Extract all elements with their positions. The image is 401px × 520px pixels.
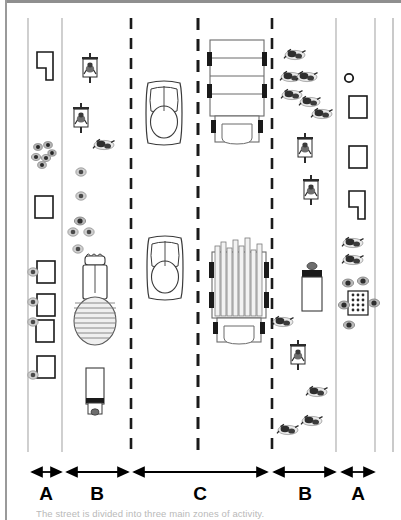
figure-caption: The street is divided into three main zo… — [36, 508, 386, 519]
post-marker — [345, 74, 353, 82]
pedestrian — [68, 228, 78, 236]
motorcycle — [277, 424, 299, 434]
motorcycle — [342, 237, 364, 247]
motorcycle — [301, 415, 323, 425]
stall — [37, 52, 53, 80]
pedestrian — [28, 318, 38, 326]
stall — [349, 96, 367, 118]
motorcycle — [290, 340, 306, 370]
motorcycle — [311, 108, 333, 118]
left-lane-objects — [68, 53, 116, 415]
motorcycle — [342, 254, 364, 264]
zone-label-b-left: B — [90, 483, 104, 504]
pedestrian-crowd — [31, 142, 56, 169]
motorcycle — [281, 89, 303, 99]
zone-label-a-right: A — [351, 483, 365, 504]
stall — [36, 320, 54, 342]
diagram-canvas: A B C B A — [0, 0, 401, 520]
zone-label-b-right: B — [298, 483, 312, 504]
figure-left-border — [5, 0, 7, 520]
pedestrian — [357, 277, 368, 285]
pedestrian — [28, 268, 38, 276]
car — [146, 81, 182, 145]
pedestrian — [28, 371, 38, 379]
pedestrian — [342, 279, 353, 287]
pedestrian — [73, 245, 83, 253]
truck — [207, 40, 267, 144]
motorcycle — [82, 53, 98, 83]
car — [147, 236, 183, 300]
pedestrian — [84, 228, 94, 236]
motorcycle — [284, 49, 306, 59]
motorcycle — [306, 386, 328, 396]
street-zone-diagram: A B C B A The street is divided into thr… — [0, 0, 401, 520]
motorcycle — [93, 139, 115, 149]
pedestrian — [76, 192, 86, 200]
left-sidewalk-objects — [28, 52, 56, 379]
figure-top-border — [6, 0, 401, 3]
pedestrian — [28, 298, 38, 306]
vendor-table — [348, 291, 368, 315]
stall — [349, 191, 365, 219]
handcart — [86, 368, 104, 415]
handcart — [74, 254, 116, 345]
pedestrian — [76, 168, 86, 176]
motorcycle — [303, 175, 319, 205]
stall — [37, 356, 55, 378]
pedestrian — [343, 321, 354, 329]
motorcycle — [299, 96, 321, 106]
center-lane-objects — [146, 40, 269, 344]
right-sidewalk-objects — [338, 74, 379, 329]
zone-labels-group: A B C B A — [39, 483, 365, 504]
right-lane-objects — [272, 49, 333, 434]
stall — [37, 294, 55, 316]
motorcycle — [73, 103, 89, 133]
motorcycle — [297, 133, 313, 163]
stall — [349, 146, 367, 168]
stall — [37, 261, 55, 283]
truck — [209, 238, 269, 344]
stall — [35, 196, 53, 218]
pedestrian — [368, 299, 379, 307]
handcart — [302, 262, 322, 311]
zone-label-c: C — [193, 483, 207, 504]
motorcycle — [296, 71, 318, 81]
zone-label-a-left: A — [39, 483, 53, 504]
motorcycle — [272, 316, 294, 326]
pedestrian — [74, 217, 85, 225]
pedestrian — [338, 301, 349, 309]
